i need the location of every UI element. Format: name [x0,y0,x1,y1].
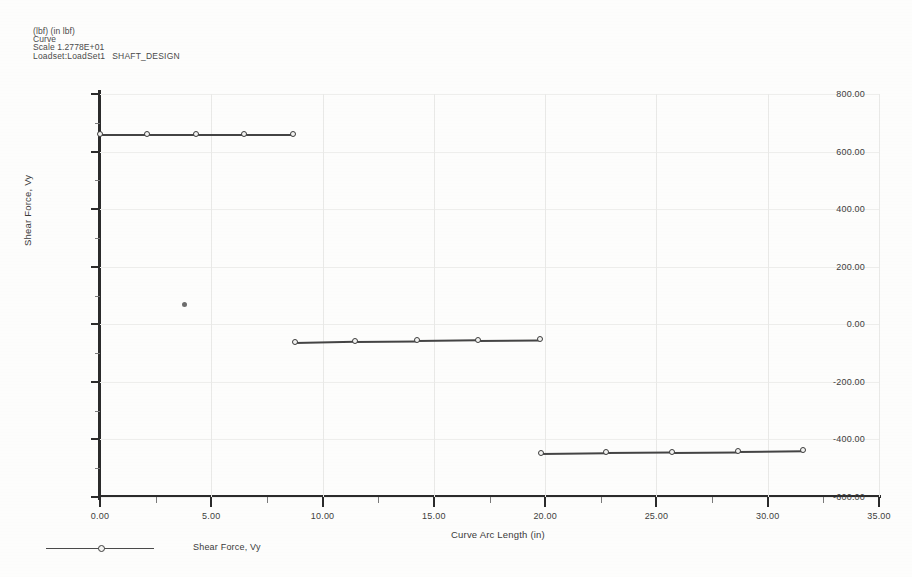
series-line-segment [417,340,478,342]
series-line-segment [100,134,147,136]
y-axis-tick [91,323,100,325]
x-axis-tick-label: 15.00 [422,511,446,521]
gridline-vertical [323,94,324,497]
y-axis-tick-label: 200.00 [836,262,865,272]
gridline-vertical [768,94,769,497]
y-axis-tick-label: 600.00 [836,147,865,157]
series-line-segment [672,451,738,453]
x-axis-tick [433,497,435,507]
series-data-point-marker [97,131,103,137]
series-data-point-marker [537,336,543,342]
x-axis-tick [544,497,546,507]
x-axis-tick [655,497,657,507]
y-axis-minor-tick [95,238,100,239]
series-line-segment [355,340,417,342]
y-axis-tick-label: -400.00 [833,434,865,444]
series-line-segment [147,134,196,136]
y-axis-minor-tick [95,353,100,354]
plot-area: -600.00-400.00-200.000.00200.00400.00600… [100,94,879,497]
gridline-vertical [545,94,546,497]
x-axis-tick-label: 10.00 [311,511,335,521]
header-loadset: Loadset:LoadSet1 [33,51,105,61]
series-line-segment [295,341,355,344]
x-axis-tick-label: 0.00 [91,511,109,521]
x-axis-tick-label: 5.00 [202,511,220,521]
x-axis-minor-tick [601,497,602,503]
series-data-point-marker [144,131,150,137]
series-data-point-marker [800,447,806,453]
x-axis-tick-label: 20.00 [533,511,557,521]
stray-data-point-marker [182,302,187,307]
y-axis-minor-tick [95,468,100,469]
x-axis-minor-tick [378,497,379,503]
series-data-point-marker [603,449,609,455]
y-axis-minor-tick [95,123,100,124]
series-data-point-marker [538,450,544,456]
x-axis-tick-label: 25.00 [645,511,669,521]
x-axis-minor-tick [267,497,268,503]
y-axis-tick-label: 0.00 [847,319,865,329]
y-axis-tick [91,151,100,153]
y-axis-tick-label: 800.00 [836,89,865,99]
legend-entry-label: Shear Force, Vy [193,542,261,552]
header-loadset-row: Loadset:LoadSet1SHAFT_DESIGN [33,52,180,60]
x-axis-minor-tick [490,497,491,503]
series-data-point-marker [475,337,481,343]
header-study: SHAFT_DESIGN [112,51,180,61]
gridline-vertical [879,94,880,497]
y-axis-tick [91,208,100,210]
x-axis-tick [322,497,324,507]
legend-marker-icon [98,545,105,552]
gridline-vertical [211,94,212,497]
series-line-segment [244,134,293,136]
series-data-point-marker [735,448,741,454]
series-line-segment [541,452,607,454]
series-data-point-marker [292,339,298,345]
series-data-point-marker [352,338,358,344]
series-data-point-marker [193,131,199,137]
y-axis-tick [91,438,100,440]
series-line-segment [606,452,672,454]
y-axis-tick [91,93,100,95]
y-axis-tick [91,266,100,268]
gridline-vertical [656,94,657,497]
series-data-point-marker [241,131,247,137]
gridline-horizontal [100,324,879,325]
x-axis-minor-tick [156,497,157,503]
gridline-horizontal [100,382,879,383]
y-axis-minor-tick [95,411,100,412]
series-line-segment [196,134,244,136]
series-line-segment [478,339,539,341]
x-axis-tick-label: 35.00 [867,511,891,521]
gridline-horizontal [100,94,879,95]
x-axis-minor-tick [823,497,824,503]
y-axis-tick-label: -600.00 [833,492,865,502]
x-axis-tick [767,497,769,507]
gridline-horizontal [100,439,879,440]
y-axis-tick-label: 400.00 [836,204,865,214]
series-data-point-marker [669,449,675,455]
chart-page: (lbf) (in lbf) Curve Scale 1.2778E+01 Lo… [0,0,912,577]
series-data-point-marker [414,337,420,343]
gridline-horizontal [100,267,879,268]
gridline-horizontal [100,209,879,210]
x-axis-tick [210,497,212,507]
y-axis-tick-label: -200.00 [833,377,865,387]
y-axis-minor-tick [95,180,100,181]
y-axis-title: Shear Force, Vy [22,175,33,246]
x-axis-title: Curve Arc Length (in) [451,529,545,540]
y-axis-minor-tick [95,296,100,297]
x-axis-tick [878,497,880,507]
gridline-horizontal [100,152,879,153]
gridline-vertical [434,94,435,497]
x-axis-tick-label: 30.00 [756,511,780,521]
chart-header-annotation: (lbf) (in lbf) Curve Scale 1.2778E+01 Lo… [33,27,180,60]
x-axis-tick [99,497,101,507]
series-data-point-marker [290,131,296,137]
y-axis-tick [91,381,100,383]
series-line-segment [738,450,804,452]
x-axis-minor-tick [712,497,713,503]
